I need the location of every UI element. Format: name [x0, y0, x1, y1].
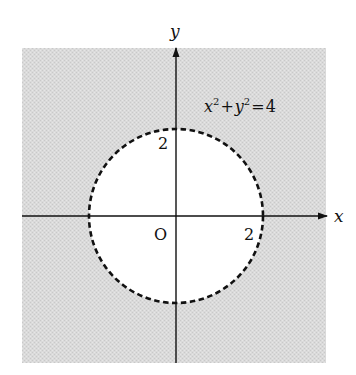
eq-y-exp: 2 [244, 96, 250, 107]
eq-x: x [204, 97, 213, 116]
coordinate-diagram: x y O 2 2 x2+y2=4 [0, 0, 356, 375]
eq-rhs: 4 [266, 97, 276, 116]
x-axis-label: x [334, 206, 344, 226]
y-axis-label: y [169, 21, 180, 41]
y-tick-2: 2 [158, 134, 168, 153]
eq-x-exp: 2 [213, 96, 219, 107]
x-tick-2: 2 [244, 225, 254, 244]
eq-equals: = [251, 97, 264, 116]
origin-label: O [154, 225, 167, 244]
eq-plus: + [220, 97, 233, 116]
